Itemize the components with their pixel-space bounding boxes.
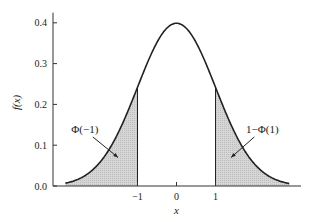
pdf-curve: [65, 23, 289, 183]
annotation-label: Φ(−1): [71, 123, 98, 136]
x-axis-label: x: [173, 204, 179, 216]
y-tick-label: 0.3: [35, 58, 48, 69]
y-tick-label: 0.0: [35, 181, 48, 192]
shaded-region-left-tail: [65, 87, 137, 186]
x-ticks: −101: [132, 182, 218, 202]
annotation-label: 1−Φ(1): [246, 123, 279, 136]
y-tick-label: 0.1: [35, 140, 48, 151]
x-tick-label: 1: [213, 191, 218, 202]
shaded-tails: [65, 87, 289, 186]
curve-layer: [65, 23, 289, 183]
axes: [53, 13, 301, 186]
x-tick-label: −1: [132, 191, 143, 202]
y-tick-label: 0.2: [35, 99, 48, 110]
normal-distribution-chart: −101 0.00.10.20.30.4 Φ(−1)1−Φ(1) x f(x): [0, 0, 317, 222]
annotations: Φ(−1)1−Φ(1): [71, 123, 279, 157]
y-axis-label: f(x): [10, 94, 23, 110]
y-ticks: 0.00.10.20.30.4: [35, 17, 58, 191]
y-tick-label: 0.4: [35, 17, 48, 28]
x-tick-label: 0: [174, 191, 179, 202]
shaded-region-right-tail: [216, 87, 290, 186]
